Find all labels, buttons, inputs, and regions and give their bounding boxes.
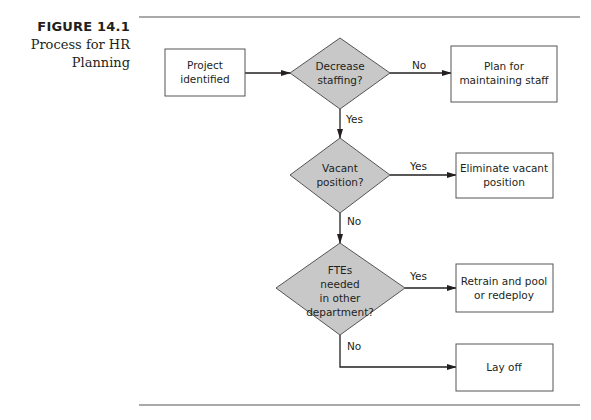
edge-label-no-2: No: [347, 215, 361, 227]
edge-label-no-3: No: [347, 340, 361, 352]
node-ftes-line2: needed: [320, 278, 359, 290]
edge-label-yes-1: Yes: [345, 113, 363, 125]
node-plan-line2: maintaining staff: [459, 74, 549, 86]
node-layoff-line1: Lay off: [486, 361, 522, 373]
node-project-line1: Project: [187, 59, 223, 71]
edge-label-no-1: No: [412, 59, 426, 71]
node-retrain-box: [456, 264, 553, 312]
edge-label-yes-3: Yes: [409, 270, 427, 282]
node-plan-line1: Plan for: [484, 60, 525, 72]
flowchart: No Yes Yes No Yes No Project identified …: [0, 0, 591, 420]
node-ftes-line3: in other: [320, 292, 362, 304]
node-eliminate-line1: Eliminate vacant: [460, 162, 548, 174]
node-project-line2: identified: [180, 73, 229, 85]
node-vacant-line2: position?: [316, 176, 363, 188]
node-decrease-line1: Decrease: [315, 60, 364, 72]
node-eliminate-line2: position: [483, 176, 525, 188]
node-ftes-line1: FTEs: [328, 264, 352, 276]
node-retrain-line1: Retrain and pool: [461, 275, 548, 287]
edge-label-yes-2: Yes: [409, 160, 427, 172]
node-retrain-line2: or redeploy: [474, 289, 534, 301]
node-decrease-line2: staffing?: [317, 74, 362, 86]
node-vacant-line1: Vacant: [322, 162, 358, 174]
node-ftes-line4: department?: [306, 306, 374, 318]
